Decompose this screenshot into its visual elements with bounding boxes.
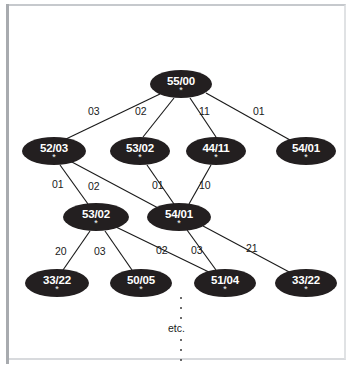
search-tree-diagram: 55/00 * 52/03 * 53/02 * 44/11 * 54/01 * … [0, 0, 353, 369]
tree-node-l2-1[interactable]: 53/02 * [63, 203, 129, 231]
tree-node-l1-2[interactable]: 53/02 * [110, 137, 170, 165]
tree-node-l1-1[interactable]: 52/03 * [22, 137, 86, 165]
tree-node-root[interactable]: 55/00 * [150, 70, 212, 98]
node-marker: * [139, 287, 143, 292]
tree-node-l1-3[interactable]: 44/11 * [186, 137, 246, 165]
dot [180, 359, 182, 361]
tree-node-l3-2[interactable]: 50/05 * [110, 269, 172, 297]
etc-label: etc. [168, 322, 185, 334]
node-marker: * [179, 88, 183, 93]
edge-label-l2-2-b: 21 [246, 242, 257, 254]
edge-line [70, 161, 160, 209]
edge-label-l2-2-a: 03 [191, 244, 202, 256]
node-marker: * [214, 155, 218, 160]
edge-line [190, 98, 216, 137]
edge-label-root-3: 11 [199, 105, 210, 117]
ellipsis-dots-below [179, 339, 182, 361]
dot [180, 349, 182, 351]
edge-line [60, 165, 88, 204]
tree-node-l3-1[interactable]: 33/22 * [25, 269, 89, 297]
edge-label-l2-1-b: 03 [94, 245, 105, 257]
edge-label-l1-2-a: 01 [152, 179, 163, 191]
edge-label-l1-3-a: 10 [199, 179, 210, 191]
edge-line [63, 231, 90, 270]
edge-line [206, 93, 290, 140]
node-marker: * [52, 155, 56, 160]
node-marker: * [177, 221, 181, 226]
node-marker: * [138, 155, 142, 160]
node-marker: * [223, 287, 227, 292]
node-marker: * [94, 221, 98, 226]
tree-node-l1-4[interactable]: 54/01 * [276, 137, 336, 165]
node-marker: * [55, 287, 59, 292]
node-marker: * [304, 287, 308, 292]
edge-line [143, 98, 174, 137]
dot [180, 339, 182, 341]
edge-label-l1-1-a: 01 [52, 178, 63, 190]
tree-node-l2-2[interactable]: 54/01 * [147, 203, 211, 231]
dot [180, 317, 182, 319]
dot [180, 307, 182, 309]
ellipsis-dots-above [179, 297, 182, 319]
edge-label-root-4: 01 [253, 105, 264, 117]
edge-label-l2-1-c: 02 [156, 244, 167, 256]
edge-label-root-2: 02 [135, 105, 146, 117]
tree-node-l3-4[interactable]: 33/22 * [275, 269, 337, 297]
edge-label-l1-1-b: 02 [88, 180, 99, 192]
edge-label-l2-1-a: 20 [55, 245, 66, 257]
edge-label-root-1: 03 [88, 105, 99, 117]
edge-line [105, 231, 132, 270]
tree-node-l3-3[interactable]: 51/04 * [194, 269, 256, 297]
figure-canvas: 55/00 * 52/03 * 53/02 * 44/11 * 54/01 * … [0, 0, 353, 369]
node-marker: * [304, 155, 308, 160]
dot [180, 297, 182, 299]
